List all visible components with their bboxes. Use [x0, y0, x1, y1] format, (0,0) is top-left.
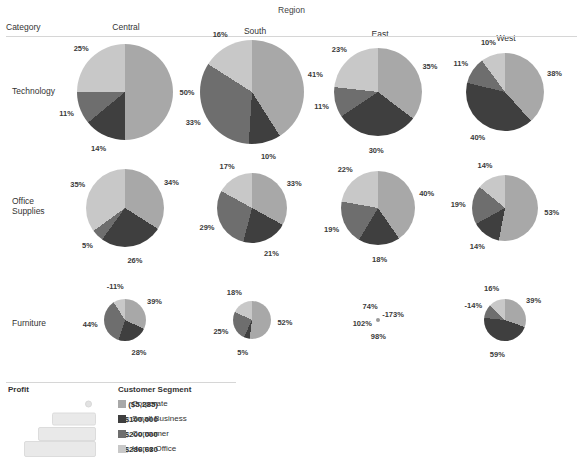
segment-legend-item[interactable]: Consumer [118, 426, 187, 441]
segment-color-swatch [118, 445, 126, 453]
pie-percent-label: 39% [526, 295, 541, 304]
row-label-office-supplies[interactable]: OfficeSupplies [12, 196, 45, 216]
pie-percent-label: 35% [70, 179, 85, 188]
pie-percent-label: 16% [484, 283, 499, 292]
pie-cell[interactable]: 34%26%5%35% [63, 156, 187, 260]
pie-slice-group[interactable] [233, 301, 271, 339]
pie-percent-label: 26% [127, 256, 142, 265]
pie-slice-group[interactable] [104, 299, 146, 341]
profit-legend-bubble [85, 400, 92, 407]
category-axis-title: Category [6, 22, 41, 32]
pie-percent-label: 23% [332, 44, 347, 53]
pie-slice-group[interactable] [86, 169, 164, 247]
pie-slice-group[interactable] [200, 40, 304, 144]
pie-cell[interactable]: 52%5%25%18% [190, 268, 314, 372]
pie-percent-label: 19% [451, 199, 466, 208]
pie-percent-label: 16% [213, 30, 228, 39]
pie-percent-label: 25% [74, 44, 89, 53]
segment-legend-label: Corporate [132, 399, 168, 408]
pie-percent-label: 59% [490, 350, 505, 359]
pie-percent-label: 44% [83, 320, 98, 329]
pie-cell[interactable]: 33%21%29%17% [190, 156, 314, 260]
pie-percent-label: 19% [324, 225, 339, 234]
pie-tiny-marker[interactable] [376, 318, 380, 322]
segment-legend-label: Consumer [132, 429, 169, 438]
pie-percent-label: 39% [147, 297, 162, 306]
pie-percent-label: 38% [547, 69, 562, 78]
region-axis-title: Region [0, 5, 583, 15]
pie-slice-group[interactable] [217, 173, 287, 243]
pie-percent-label: 33% [287, 179, 302, 188]
pie-slice-group[interactable] [341, 171, 415, 245]
segment-color-swatch [118, 430, 126, 438]
pie-percent-label: 18% [372, 254, 387, 263]
customer-segment-legend: CorporateSmall BusinessConsumerHome Offi… [118, 396, 187, 456]
row-label-technology[interactable]: Technology [12, 86, 55, 96]
pie-slice-group[interactable] [472, 175, 538, 241]
row-label-furniture[interactable]: Furniture [12, 318, 46, 328]
pie-percent-label: 34% [164, 178, 179, 187]
column-header-east[interactable]: East [320, 29, 440, 39]
segment-legend-item[interactable]: Corporate [118, 396, 187, 411]
pie-slice-group[interactable] [466, 53, 544, 131]
pie-percent-label: 28% [132, 348, 147, 357]
profit-legend-title: Profit [8, 385, 29, 394]
pie-percent-label: 14% [91, 144, 106, 153]
pie-cell[interactable]: 53%14%19%14% [443, 156, 567, 260]
pie-percent-label: 5% [237, 347, 248, 356]
pie-percent-label: -11% [107, 282, 124, 291]
pie-percent-label: 5% [82, 241, 93, 250]
pie-slice-group[interactable] [484, 299, 526, 341]
pie-percent-label: 14% [470, 242, 485, 251]
pie-percent-label: 10% [481, 37, 496, 46]
segment-legend-label: Home Office [132, 444, 176, 453]
pie-percent-label: 98% [371, 331, 386, 340]
segment-legend-title: Customer Segment [118, 385, 191, 394]
pie-percent-label: 53% [544, 208, 559, 217]
profit-legend-bubble [52, 412, 96, 425]
pie-cell[interactable]: 38%40%11%10% [443, 40, 567, 144]
pie-percent-label: 35% [422, 62, 437, 71]
pie-cell[interactable]: 40%18%19%22% [316, 156, 440, 260]
pie-percent-label: 33% [186, 117, 201, 126]
pie-cell[interactable]: 41%10%33%16% [190, 40, 314, 144]
pie-percent-label: 11% [59, 109, 74, 118]
pie-slice-group[interactable] [334, 48, 422, 136]
segment-color-swatch [118, 415, 126, 423]
pie-percent-label: 102% [353, 318, 372, 327]
pie-percent-label: 22% [338, 164, 353, 173]
pie-percent-label: 52% [277, 318, 292, 327]
segment-color-swatch [118, 400, 126, 408]
pie-percent-label: 40% [419, 188, 434, 197]
pie-percent-label: -14% [465, 301, 483, 310]
pie-slice-group[interactable] [77, 44, 173, 140]
profit-legend-bubble [38, 427, 96, 441]
pie-percent-label: 30% [369, 145, 384, 154]
pie-cell[interactable]: 39%59%-14%16% [443, 268, 567, 372]
pie-percent-label: 25% [213, 327, 228, 336]
pie-chart-matrix: Region Category Central South East West … [0, 0, 583, 469]
pie-cell[interactable]: 50%14%11%25% [63, 40, 187, 144]
pie-percent-label: 11% [454, 58, 469, 67]
pie-cell[interactable]: 35%30%11%23% [316, 40, 440, 144]
pie-percent-label: 21% [264, 248, 279, 257]
pie-percent-label: 14% [477, 161, 492, 170]
pie-percent-label: 40% [470, 133, 485, 142]
pie-percent-label: 29% [200, 223, 215, 232]
segment-legend-item[interactable]: Small Business [118, 411, 187, 426]
pie-percent-label: 17% [220, 161, 235, 170]
pie-percent-label: 11% [314, 101, 329, 110]
pie-percent-label: -173% [382, 310, 404, 319]
pie-percent-label: 74% [363, 302, 378, 311]
pie-percent-label: 18% [227, 288, 242, 297]
legend-divider [6, 382, 236, 383]
pie-cell[interactable]: -173%98%102%74% [316, 268, 440, 372]
segment-legend-label: Small Business [132, 414, 187, 423]
segment-legend-item[interactable]: Home Office [118, 441, 187, 456]
profit-legend-bubble [24, 441, 96, 457]
column-header-central[interactable]: Central [66, 22, 186, 32]
pie-cell[interactable]: 39%28%44%-11% [63, 268, 187, 372]
